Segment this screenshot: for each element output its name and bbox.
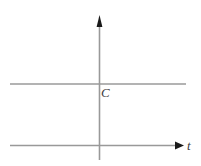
graph-canvas (0, 0, 201, 166)
horizontal-axis-label: t (187, 139, 191, 152)
constant-level-label: C (101, 86, 110, 99)
horizontal-axis-arrow-icon (175, 142, 184, 150)
vertical-axis-arrow-icon (97, 15, 103, 27)
graph-figure: C t (0, 0, 201, 166)
